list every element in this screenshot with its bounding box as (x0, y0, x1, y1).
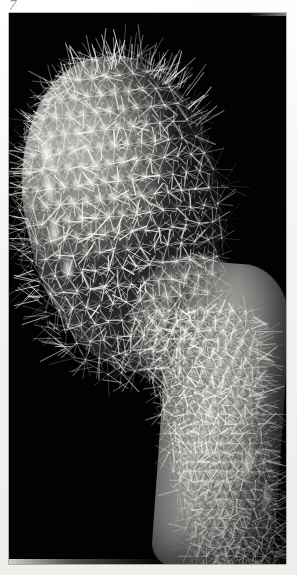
paper-page: 7 Club-shaped spiny cactus head wi (0, 0, 297, 575)
plate-top-edge (9, 13, 286, 16)
plate-image-area (9, 13, 286, 564)
spine-cluster-layer (9, 13, 286, 564)
cactus-specimen (9, 13, 286, 564)
plate-bottom-edge (9, 559, 286, 564)
photographic-plate (9, 13, 286, 564)
handwritten-annotation: 7 (9, 0, 35, 14)
